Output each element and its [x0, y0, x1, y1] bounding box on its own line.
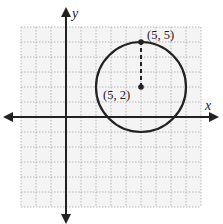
- top-point-label: (5, 5): [147, 28, 174, 42]
- graph-svg: y x (5, 5) (5, 2): [0, 0, 223, 224]
- top-point: [138, 39, 144, 45]
- coordinate-plane: y x (5, 5) (5, 2): [0, 0, 223, 224]
- y-axis-label: y: [70, 6, 79, 21]
- x-axis-label: x: [204, 98, 212, 113]
- center-point: [138, 84, 144, 90]
- center-point-label: (5, 2): [103, 88, 130, 102]
